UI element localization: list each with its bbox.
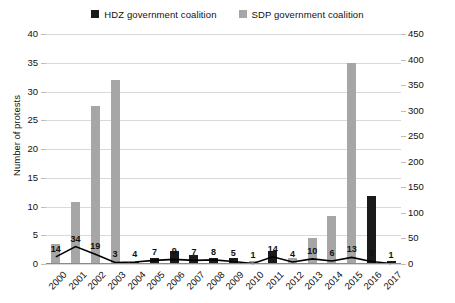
data-label: 5 bbox=[231, 248, 236, 258]
data-label: 4 bbox=[290, 249, 295, 259]
data-label: 14 bbox=[51, 244, 61, 254]
y-tick-left-15: 15 bbox=[8, 172, 38, 183]
x-tick-label-2009: 2009 bbox=[223, 269, 246, 292]
x-tick-label-2015: 2015 bbox=[342, 269, 365, 292]
x-tick-label-2004: 2004 bbox=[125, 269, 148, 292]
y-tick-right-0: 0 bbox=[408, 258, 442, 269]
legend-item-hdz: HDZ government coalition bbox=[91, 9, 216, 20]
y-tick-left-30: 30 bbox=[8, 86, 38, 97]
y-tickmark-right bbox=[401, 238, 406, 239]
y-tick-left-5: 5 bbox=[8, 229, 38, 240]
y-tickmark-right bbox=[401, 136, 406, 137]
y-tickmark-right bbox=[401, 111, 406, 112]
y-tick-right-400: 400 bbox=[408, 54, 442, 65]
chart-legend: HDZ government coalition SDP government … bbox=[0, 6, 455, 22]
line-series-layer bbox=[46, 34, 401, 264]
data-label: 7 bbox=[191, 247, 196, 257]
x-tick-label-2005: 2005 bbox=[145, 269, 168, 292]
y-tickmark-right bbox=[401, 85, 406, 86]
legend-label-sdp: SDP government coalition bbox=[252, 9, 364, 20]
legend-swatch-sdp bbox=[239, 10, 247, 18]
data-label: 8 bbox=[211, 247, 216, 257]
data-label: 1 bbox=[389, 250, 394, 260]
y-tick-right-200: 200 bbox=[408, 156, 442, 167]
data-label: 9 bbox=[172, 246, 177, 256]
x-tick-label-2017: 2017 bbox=[381, 269, 404, 292]
x-tick-label-2007: 2007 bbox=[184, 269, 207, 292]
y-tickmark-right bbox=[401, 187, 406, 188]
data-label: 6 bbox=[329, 248, 334, 258]
x-tick-label-2006: 2006 bbox=[164, 269, 187, 292]
y-tick-right-150: 150 bbox=[408, 181, 442, 192]
y-tick-left-0: 0 bbox=[8, 258, 38, 269]
x-tick-label-2014: 2014 bbox=[322, 269, 345, 292]
legend-item-sdp: SDP government coalition bbox=[239, 9, 364, 20]
data-label: 13 bbox=[347, 244, 357, 254]
data-label: 19 bbox=[90, 241, 100, 251]
plot-area: 143419347978511441061351 bbox=[46, 34, 401, 264]
y-tickmark-right bbox=[401, 60, 406, 61]
x-tick-label-2013: 2013 bbox=[302, 269, 325, 292]
data-label: 3 bbox=[113, 249, 118, 259]
y-tick-right-450: 450 bbox=[408, 28, 442, 39]
y-tick-right-300: 300 bbox=[408, 105, 442, 116]
x-tick-label-2008: 2008 bbox=[204, 269, 227, 292]
x-tick-label-2010: 2010 bbox=[243, 269, 266, 292]
data-label: 10 bbox=[307, 246, 317, 256]
x-tick-label-2002: 2002 bbox=[85, 269, 108, 292]
data-label: 1 bbox=[251, 250, 256, 260]
line-path bbox=[56, 247, 391, 264]
y-tick-left-35: 35 bbox=[8, 57, 38, 68]
y-tick-left-40: 40 bbox=[8, 28, 38, 39]
x-axis-tick-labels: 2000200120022003200420052006200720082009… bbox=[46, 266, 401, 303]
gridline bbox=[46, 264, 401, 265]
x-tick-label-2001: 2001 bbox=[66, 269, 89, 292]
y-tickmark-right bbox=[401, 34, 406, 35]
y-tick-right-250: 250 bbox=[408, 130, 442, 141]
y-tickmark-right bbox=[401, 213, 406, 214]
y-tick-right-100: 100 bbox=[408, 207, 442, 218]
x-tick-label-2016: 2016 bbox=[361, 269, 384, 292]
x-tick-label-2003: 2003 bbox=[105, 269, 128, 292]
y-tick-left-20: 20 bbox=[8, 143, 38, 154]
y-tickmark-right bbox=[401, 162, 406, 163]
y-tick-left-25: 25 bbox=[8, 114, 38, 125]
legend-label-hdz: HDZ government coalition bbox=[104, 9, 216, 20]
y-tick-right-350: 350 bbox=[408, 79, 442, 90]
data-label: 14 bbox=[268, 244, 278, 254]
y-tick-left-10: 10 bbox=[8, 201, 38, 212]
x-tick-label-2000: 2000 bbox=[46, 269, 69, 292]
x-tick-label-2011: 2011 bbox=[263, 269, 285, 291]
data-label: 5 bbox=[369, 248, 374, 258]
data-label: 4 bbox=[132, 249, 137, 259]
legend-swatch-hdz bbox=[91, 10, 99, 18]
y-tick-right-50: 50 bbox=[408, 232, 442, 243]
x-tick-label-2012: 2012 bbox=[283, 269, 306, 292]
x-axis-baseline bbox=[46, 263, 401, 264]
data-label: 7 bbox=[152, 247, 157, 257]
chart-container: HDZ government coalition SDP government … bbox=[0, 0, 455, 303]
data-label: 34 bbox=[71, 234, 81, 244]
y-tickmark-right bbox=[401, 264, 406, 265]
